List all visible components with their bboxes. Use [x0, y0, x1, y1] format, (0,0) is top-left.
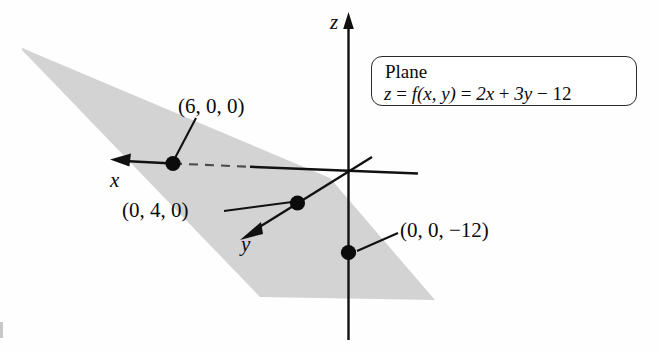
y-intercept-label: (0, 4, 0) — [122, 200, 189, 221]
equation-term-1: 2x — [476, 83, 494, 104]
z-axis-label: z — [330, 12, 338, 33]
equation-minus-sign: − — [537, 83, 548, 104]
x-axis-arrowhead — [110, 154, 131, 167]
equation-lhs: z — [384, 83, 391, 104]
z-axis-arrowhead — [343, 12, 354, 29]
equation-equals-1: = — [396, 83, 407, 104]
scan-edge-artifact — [0, 322, 3, 338]
z-intercept-label: (0, 0, −12) — [400, 220, 489, 241]
y-axis-label: y — [241, 234, 250, 255]
x-intercept-label: (6, 0, 0) — [178, 96, 245, 117]
plane-callout-title: Plane — [385, 62, 427, 81]
equation-plus-sign: + — [499, 83, 510, 104]
x-axis-label: x — [110, 170, 119, 191]
equation-equals-2: = — [461, 83, 472, 104]
equation-arguments: (x, y) — [417, 83, 456, 104]
plane-callout-equation: z = f(x, y) = 2x + 3y − 12 — [384, 84, 571, 103]
equation-term-2: 3y — [514, 83, 532, 104]
plane-diagram-figure: x y z (6, 0, 0) (0, 4, 0) (0, 0, −12) Pl… — [0, 0, 659, 352]
z-intercept-dot — [341, 245, 356, 260]
y-intercept-dot — [290, 195, 305, 210]
equation-constant: 12 — [552, 83, 571, 104]
x-intercept-dot — [165, 156, 180, 171]
diagram-canvas — [0, 0, 659, 352]
